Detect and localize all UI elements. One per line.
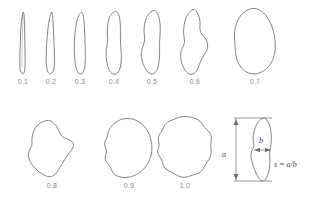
shape-label-0-2: 0.2	[46, 78, 56, 85]
particle-outline-0-9	[101, 116, 157, 180]
definition-diagram-svg	[216, 110, 312, 190]
particle-outline-0-7	[228, 6, 282, 76]
shape-label-1-0: 1.0	[180, 182, 190, 189]
shape-cell-0-5: 0.5	[135, 8, 169, 85]
shape-label-0-9: 0.9	[124, 182, 134, 189]
particle-outline-0-6	[174, 7, 216, 76]
shape-label-0-6: 0.6	[190, 78, 200, 85]
shape-label-0-3: 0.3	[75, 78, 85, 85]
particle-outline-0-3	[67, 10, 93, 76]
particle-outline-0-5	[135, 8, 169, 76]
shape-cell-0-3: 0.3	[67, 10, 93, 85]
sphericity-comparison-figure: 0.1 0.2 0.3 0.4 0.5 0.6 0.7	[0, 0, 312, 205]
shape-cell-1-0: 1.0	[155, 114, 215, 189]
shape-cell-0-2: 0.2	[39, 10, 63, 85]
long-axis-label: a	[222, 150, 226, 159]
particle-outline-0-1	[12, 10, 34, 76]
definition-diagram: a b s = a/b	[216, 110, 312, 190]
a-arrowhead-bottom	[234, 174, 239, 180]
particle-outline-0-2	[39, 10, 63, 76]
particle-outline-0-4	[99, 9, 129, 76]
a-arrowhead-top	[234, 119, 239, 125]
shape-factor-formula: s = a/b	[274, 160, 297, 169]
shape-label-0-7: 0.7	[250, 78, 260, 85]
shape-label-0-1: 0.1	[18, 78, 28, 85]
shape-cell-0-8: 0.8	[25, 118, 79, 189]
short-axis-label: b	[259, 136, 263, 145]
shape-cell-0-6: 0.6	[174, 7, 216, 85]
shape-cell-0-1: 0.1	[12, 10, 34, 85]
particle-outline-1-0	[155, 114, 215, 180]
shape-cell-0-4: 0.4	[99, 9, 129, 85]
shape-cell-0-7: 0.7	[228, 6, 282, 85]
shape-cell-0-9: 0.9	[101, 116, 157, 189]
shape-label-0-8: 0.8	[47, 182, 57, 189]
shape-label-0-4: 0.4	[109, 78, 119, 85]
particle-outline-0-8	[25, 118, 79, 180]
b-arrowhead-left	[255, 148, 261, 153]
shape-label-0-5: 0.5	[147, 78, 157, 85]
